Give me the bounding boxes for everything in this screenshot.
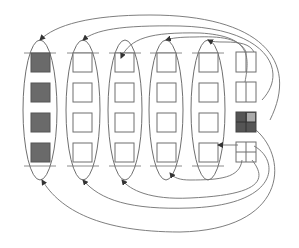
cell-empty — [199, 83, 218, 102]
cell-empty — [115, 83, 134, 102]
group-1 — [23, 40, 57, 180]
cell-empty — [115, 113, 134, 132]
arrow-to-group-4-top — [166, 37, 246, 52]
arrow-to-group-4-bottom — [170, 160, 242, 180]
cell-empty — [199, 53, 218, 72]
cell-empty — [199, 113, 218, 132]
group-4 — [149, 40, 183, 180]
group-2 — [66, 40, 100, 180]
cell-empty — [157, 113, 176, 132]
cell-empty — [157, 143, 176, 162]
cell-empty — [73, 83, 92, 102]
cell-empty — [73, 113, 92, 132]
group-3 — [108, 40, 142, 180]
arrow-to-group-3-bottom — [122, 160, 259, 198]
cell-empty — [157, 53, 176, 72]
cell-empty — [115, 53, 134, 72]
cell-filled — [31, 53, 50, 72]
cell-empty — [73, 143, 92, 162]
cell-empty — [157, 83, 176, 102]
pointer-box-3-filled — [236, 112, 256, 132]
pointer-box-4 — [236, 142, 256, 162]
cell-empty — [199, 143, 218, 162]
cell-filled — [31, 143, 50, 162]
cell-empty — [73, 53, 92, 72]
cell-empty — [115, 143, 134, 162]
cell-filled — [31, 113, 50, 132]
cell-filled — [31, 83, 50, 102]
group-5 — [191, 40, 225, 180]
pointer-boxes — [236, 52, 256, 162]
diagram-svg — [0, 0, 299, 248]
diagram-canvas — [0, 0, 299, 248]
pointer-box-2 — [236, 82, 256, 102]
